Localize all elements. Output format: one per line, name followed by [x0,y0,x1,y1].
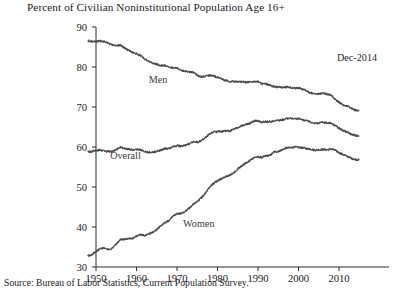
y-axis-tick-label: 30 [76,262,87,273]
y-axis-tick-label: 50 [76,182,87,193]
series-label-women: Women [183,218,214,229]
data-series-men [88,40,359,111]
data-series-women [88,146,359,256]
y-axis-tick-label: 60 [76,142,87,153]
series-label-overall: Overall [110,150,141,161]
y-axis-tick-label: 80 [76,62,87,73]
y-axis-tick-label: 70 [76,102,87,113]
series-label-men: Men [149,74,168,85]
data-series-overall [88,118,359,153]
last-observation-label: Dec-2014 [337,52,377,63]
x-axis-tick-label: 1990 [247,273,268,284]
x-axis-tick-label: 2000 [288,273,309,284]
y-axis-tick-label: 90 [76,22,87,33]
labor-force-participation-figure: Percent of Civilian Noninstitutional Pop… [0,0,393,292]
y-axis-tick-label: 40 [76,222,87,233]
line-chart-plot: 3040506070809019501960197019801990200020… [0,0,393,292]
chart-axes [96,27,389,267]
x-axis-tick-label: 2010 [328,273,349,284]
source-note: Source: Bureau of Labor Statistics, Curr… [4,277,249,288]
